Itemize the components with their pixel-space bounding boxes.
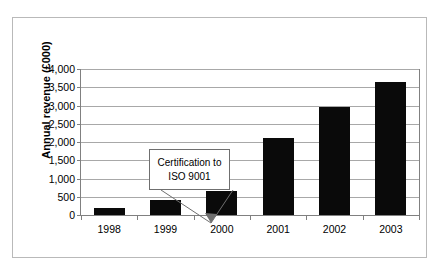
y-axis-tick-label: 0 bbox=[69, 209, 75, 221]
y-axis-tick bbox=[77, 179, 81, 180]
gridline bbox=[81, 197, 419, 198]
y-axis-tick-label: 4,000 bbox=[49, 63, 75, 75]
x-axis-tick bbox=[363, 215, 364, 220]
bar-1999 bbox=[150, 200, 181, 215]
bar-2003 bbox=[375, 82, 406, 215]
y-axis-tick bbox=[77, 106, 81, 107]
gridline bbox=[81, 160, 419, 161]
y-axis-tick bbox=[77, 197, 81, 198]
annotation-callout-iso-certification: Certification to ISO 9001 bbox=[149, 149, 230, 190]
plot-area: 05001,0001,5002,0002,5003,0003,5004,000 … bbox=[80, 69, 419, 216]
gridline bbox=[81, 69, 419, 70]
bar-1998 bbox=[94, 208, 125, 215]
annotation-line-2: ISO 9001 bbox=[168, 170, 210, 184]
y-axis-tick-label: 2,500 bbox=[49, 118, 75, 130]
gridline bbox=[81, 179, 419, 180]
gridline bbox=[81, 106, 419, 107]
y-axis-tick bbox=[77, 142, 81, 143]
y-axis-tick-label: 1,500 bbox=[49, 154, 75, 166]
y-axis-tick bbox=[77, 87, 81, 88]
y-axis-tick-label: 500 bbox=[57, 191, 75, 203]
y-axis-tick bbox=[77, 124, 81, 125]
y-axis-tick-label: 3,000 bbox=[49, 100, 75, 112]
y-axis-tick-label: 3,500 bbox=[49, 81, 75, 93]
x-axis-tick bbox=[137, 215, 138, 220]
x-axis-tick-label-2001: 2001 bbox=[266, 223, 289, 235]
x-axis-tick-label-1998: 1998 bbox=[97, 223, 120, 235]
x-axis-tick bbox=[306, 215, 307, 220]
gridline bbox=[81, 142, 419, 143]
x-axis-tick bbox=[250, 215, 251, 220]
gridline bbox=[81, 124, 419, 125]
annotation-line-1: Certification to bbox=[158, 156, 222, 170]
x-axis-tick bbox=[81, 215, 82, 220]
y-axis-tick-label: 2,000 bbox=[49, 136, 75, 148]
x-axis-tick-label-2002: 2002 bbox=[323, 223, 346, 235]
x-axis-tick bbox=[419, 215, 420, 220]
gridline bbox=[81, 87, 419, 88]
plot-right-edge bbox=[419, 69, 420, 215]
x-axis-tick-label-2003: 2003 bbox=[379, 223, 402, 235]
x-axis-tick-label-1999: 1999 bbox=[154, 223, 177, 235]
y-axis-tick bbox=[77, 160, 81, 161]
chart-frame: Annual revenue (£000) 05001,0001,5002,00… bbox=[12, 17, 427, 258]
y-axis-tick bbox=[77, 69, 81, 70]
y-axis-tick-label: 1,000 bbox=[49, 173, 75, 185]
bar-2000 bbox=[206, 191, 237, 215]
bar-2002 bbox=[319, 107, 350, 215]
x-axis-tick bbox=[194, 215, 195, 220]
bar-2001 bbox=[263, 138, 294, 215]
x-axis-tick-label-2000: 2000 bbox=[210, 223, 233, 235]
